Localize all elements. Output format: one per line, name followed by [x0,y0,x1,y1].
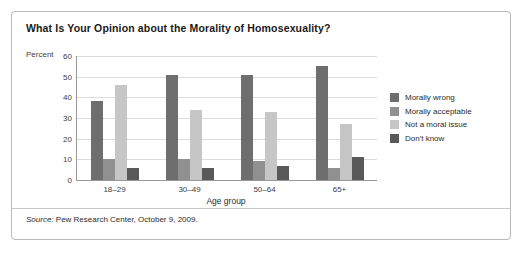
plot-area: 0102030405060 18–2930–4950–6465+ [76,56,377,181]
bar [91,101,103,180]
bar [265,112,277,180]
bar [277,166,289,180]
source-text: Pew Research Center, October 9, 2009. [54,215,198,224]
y-axis-tick-label: 20 [63,134,72,143]
plot-area-wrapper: 0102030405060 18–2930–4950–6465+ [76,56,376,180]
bar-group: 18–29 [86,56,144,180]
y-axis-tick-label: 50 [63,72,72,81]
bar [241,75,253,180]
x-axis-tick-label: 18–29 [103,185,125,194]
legend: Morally wrongMorally acceptableNot a mor… [390,93,472,143]
bar [178,159,190,180]
bar [253,161,265,180]
bar-group: 30–49 [161,56,219,180]
bar [202,168,214,180]
legend-swatch [390,134,399,143]
source-note: Source: Pew Research Center, October 9, … [26,215,198,224]
legend-item: Don't know [390,134,472,143]
x-axis-tick-label: 50–64 [253,185,275,194]
footer-divider [12,208,510,209]
legend-item: Not a moral issue [390,120,472,129]
bar [340,124,352,180]
bar [166,75,178,180]
legend-item: Morally acceptable [390,107,472,116]
x-axis-tick-label: 65+ [333,185,347,194]
y-axis-tick-label: 30 [63,114,72,123]
x-axis-tick-label: 30–49 [178,185,200,194]
y-axis-tick-label: 10 [63,155,72,164]
legend-swatch [390,120,399,129]
bar [316,66,328,180]
legend-swatch [390,107,399,116]
y-axis-tick-label: 60 [63,52,72,61]
bar-groups: 18–2930–4950–6465+ [77,56,377,180]
y-axis-tick-label: 40 [63,93,72,102]
source-label: Source: [26,215,54,224]
legend-swatch [390,93,399,102]
legend-item: Morally wrong [390,93,472,102]
bar [328,168,340,180]
legend-label: Morally wrong [405,93,455,102]
bar [115,85,127,180]
bar [190,110,202,180]
chart-title: What Is Your Opinion about the Morality … [26,22,331,34]
legend-label: Don't know [405,134,444,143]
bar [103,159,115,180]
legend-label: Morally acceptable [405,107,472,116]
x-axis-title: Age group [76,196,376,206]
bar-group: 65+ [311,56,369,180]
legend-label: Not a moral issue [405,120,467,129]
bar [127,168,139,180]
bar [352,157,364,180]
y-axis-title: Percent [26,50,54,59]
y-axis-tick-label: 0 [68,176,72,185]
bar-group: 50–64 [236,56,294,180]
chart-card: What Is Your Opinion about the Morality … [11,11,511,240]
